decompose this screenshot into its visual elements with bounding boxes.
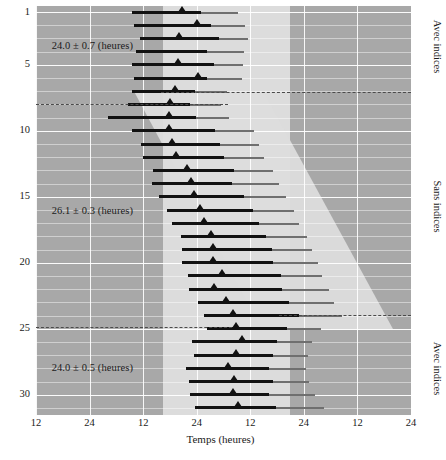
sleep-period-bar [167, 209, 253, 212]
temperature-minimum-marker [165, 124, 173, 130]
actogram-row [36, 244, 411, 256]
sleep-period-bar [207, 327, 287, 330]
temperature-minimum-marker [187, 177, 195, 183]
actogram-row [36, 402, 411, 414]
temperature-minimum-marker [229, 388, 237, 394]
regime-label: Sans indices [411, 201, 441, 212]
regime-label: Avec indices [411, 363, 441, 374]
temperature-minimum-marker [196, 204, 204, 210]
actogram-row [36, 336, 411, 348]
regime-label-text: Sans indices [432, 181, 443, 233]
temperature-minimum-marker [229, 309, 237, 315]
regime-label-text: Avec indices [432, 20, 443, 74]
sleep-period-bar [132, 129, 215, 132]
actogram-row [36, 231, 411, 243]
actogram-row [36, 178, 411, 190]
actogram-row [36, 389, 411, 401]
temperature-minimum-marker [171, 85, 179, 91]
right-axis-regime-labels: Avec indicesSans indicesAvec indices [411, 0, 441, 460]
temperature-minimum-marker [209, 256, 217, 262]
sleep-period-bar [192, 340, 277, 343]
sleep-period-bar [132, 11, 202, 14]
temperature-minimum-marker [222, 296, 230, 302]
sleep-period-bar [108, 116, 196, 119]
temperature-minimum-marker [234, 401, 242, 407]
actogram-row [36, 297, 411, 309]
temperature-minimum-marker [175, 32, 183, 38]
temperature-minimum-marker [207, 230, 215, 236]
temperature-minimum-marker [178, 6, 186, 12]
period-annotation: 26.1 ± 0.3 (heures) [52, 205, 133, 216]
temperature-minimum-marker [209, 243, 217, 249]
temperature-minimum-marker [210, 283, 218, 289]
sleep-period-bar [141, 143, 220, 146]
regime-label: Avec indices [411, 41, 441, 52]
regime-label-text: Avec indices [432, 341, 443, 395]
actogram-row [36, 191, 411, 203]
sleep-period-bar [143, 156, 224, 159]
sleep-period-bar [189, 288, 282, 291]
x-tick-label: 24 [182, 417, 212, 428]
regime-boundary-line [36, 104, 228, 105]
regime-boundary-line [161, 92, 411, 93]
plot-area: 24.0 ± 0.7 (heures)26.1 ± 0.3 (heures)24… [36, 6, 411, 415]
actogram-row [36, 165, 411, 177]
period-annotation: 24.0 ± 0.7 (heures) [52, 40, 133, 51]
y-tick-label: 10 [0, 124, 30, 135]
actogram-row [36, 284, 411, 296]
actogram-row [36, 310, 411, 322]
y-tick-label: 1 [0, 6, 30, 17]
actogram-row [36, 7, 411, 19]
regime-boundary-line [279, 315, 411, 316]
y-tick-label: 15 [0, 190, 30, 201]
sleep-period-bar [159, 195, 243, 198]
y-tick-label: 20 [0, 256, 30, 267]
temperature-minimum-marker [165, 111, 173, 117]
sleep-period-bar [182, 248, 272, 251]
temperature-minimum-marker [232, 322, 240, 328]
temperature-minimum-marker [183, 164, 191, 170]
sleep-period-bar [132, 63, 214, 66]
actogram-row [36, 152, 411, 164]
sleep-period-bar [188, 274, 281, 277]
temperature-minimum-marker [232, 349, 240, 355]
temperature-minimum-marker [172, 151, 180, 157]
temperature-minimum-marker [168, 138, 176, 144]
sleep-period-bar [136, 50, 207, 53]
x-tick-label: 12 [235, 417, 265, 428]
temperature-minimum-marker [200, 217, 208, 223]
x-tick-label: 12 [21, 417, 51, 428]
temperature-minimum-marker [190, 190, 198, 196]
sleep-period-bar [172, 222, 259, 225]
sleep-period-bar [181, 235, 266, 238]
sleep-period-bar [153, 169, 234, 172]
actogram-row [36, 218, 411, 230]
actogram-row [36, 59, 411, 71]
x-axis-title: Temps (heures) [0, 433, 441, 445]
temperature-minimum-marker [238, 335, 246, 341]
temperature-minimum-marker [218, 269, 226, 275]
y-tick-label: 5 [0, 58, 30, 69]
actogram-row [36, 125, 411, 137]
actogram-row [36, 99, 411, 111]
y-tick-label: 30 [0, 388, 30, 399]
x-tick-label: 24 [289, 417, 319, 428]
sleep-period-bar [182, 261, 273, 264]
x-tick-label: 24 [75, 417, 105, 428]
actogram-row [36, 376, 411, 388]
regime-boundary-line [36, 327, 232, 328]
temperature-minimum-marker [174, 58, 182, 64]
actogram-row [36, 270, 411, 282]
actogram-row [36, 350, 411, 362]
y-axis-ticks: 151015202530 [0, 0, 33, 460]
actogram-row [36, 139, 411, 151]
actogram-row [36, 20, 411, 32]
temperature-minimum-marker [193, 19, 201, 25]
actogram-row [36, 257, 411, 269]
actogram-row [36, 323, 411, 335]
x-tick-label: 12 [342, 417, 372, 428]
x-axis-ticks: 1224122412241224 [0, 417, 441, 433]
y-tick-label: 25 [0, 322, 30, 333]
temperature-minimum-marker [224, 362, 232, 368]
